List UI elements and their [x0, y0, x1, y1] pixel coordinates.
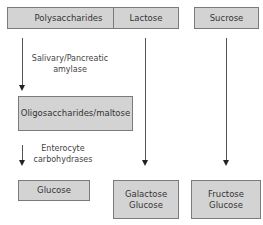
- node-lactose-label: Lactose: [130, 13, 163, 24]
- arrow-amylase-head-icon: [19, 85, 25, 91]
- node-oligosaccharides-label: Oligosaccharides/maltose: [21, 108, 130, 119]
- edge-label-amylase-line1: Salivary/Pancreatic: [30, 53, 110, 64]
- node-polysaccharides-label: Polysaccharides: [35, 13, 103, 24]
- arrow-carbohydrases-line: [22, 145, 23, 161]
- arrow-sucrose-head-icon: [223, 160, 229, 166]
- node-oligosaccharides: Oligosaccharides/maltose: [18, 96, 133, 131]
- edge-label-amylase-line2: amylase: [30, 64, 110, 75]
- edge-label-carbohydrases: Enterocyte carbohydrases: [30, 143, 96, 165]
- node-galactose-label: Galactose: [125, 189, 167, 200]
- node-galactose-glucose: Galactose Glucose: [113, 180, 179, 219]
- node-glucose-label: Glucose: [37, 185, 71, 196]
- edge-label-carbohydrases-line1: Enterocyte: [30, 143, 96, 154]
- arrow-lactose-line: [145, 38, 146, 161]
- node-fructose-label: Fructose: [208, 189, 244, 200]
- node-galactose-glucose-label: Glucose: [129, 200, 163, 211]
- edge-label-carbohydrases-line2: carbohydrases: [30, 154, 96, 165]
- node-glucose: Glucose: [18, 180, 90, 201]
- arrow-sucrose-line: [226, 38, 227, 161]
- arrow-amylase-line: [22, 38, 23, 86]
- arrow-lactose-head-icon: [142, 160, 148, 166]
- node-fructose-glucose: Fructose Glucose: [191, 180, 261, 219]
- node-sucrose: Sucrose: [194, 7, 259, 29]
- arrow-carbohydrases-head-icon: [19, 160, 25, 166]
- node-fructose-glucose-label: Glucose: [209, 200, 243, 211]
- node-polysaccharides: Polysaccharides: [7, 7, 130, 29]
- node-lactose: Lactose: [113, 7, 179, 29]
- edge-label-amylase: Salivary/Pancreatic amylase: [30, 53, 110, 75]
- node-sucrose-label: Sucrose: [210, 13, 244, 24]
